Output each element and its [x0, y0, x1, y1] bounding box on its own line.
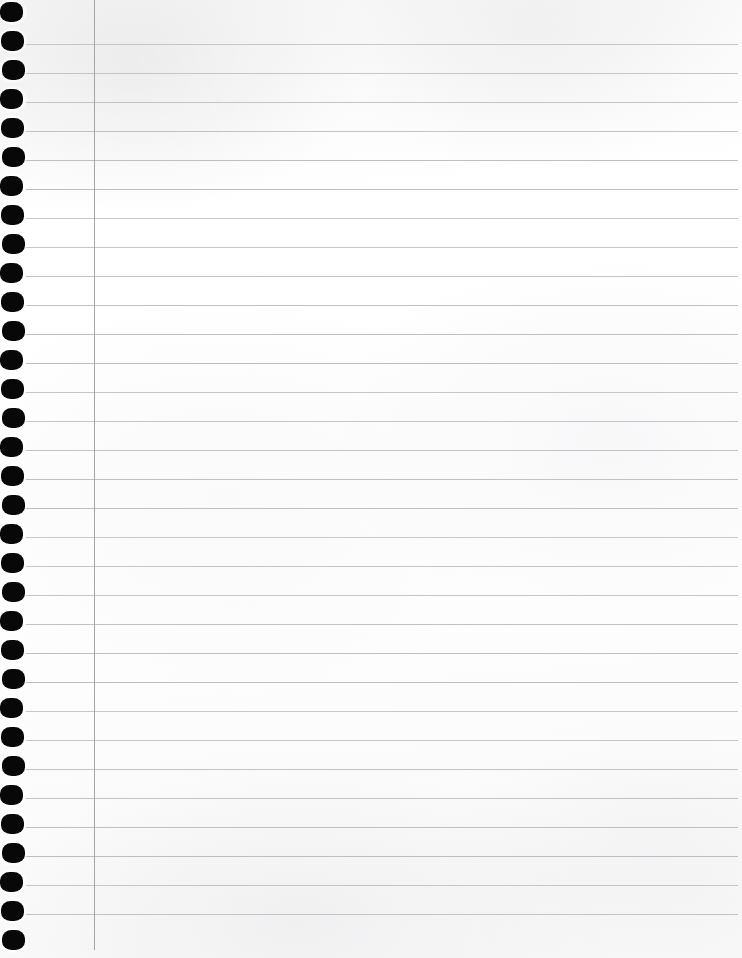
punch-hole [0, 698, 23, 718]
punch-hole [1, 553, 24, 573]
punch-hole [0, 872, 23, 892]
punch-hole [1, 118, 24, 138]
writing-area [95, 0, 742, 958]
punch-hole [2, 582, 25, 602]
punch-hole [0, 611, 23, 631]
punch-hole [2, 930, 25, 950]
punch-hole [0, 2, 23, 22]
punch-hole [1, 640, 24, 660]
punch-hole [1, 292, 24, 312]
punch-hole [0, 437, 23, 457]
punch-hole [2, 843, 25, 863]
punch-hole [0, 524, 23, 544]
punch-hole [0, 89, 23, 109]
punch-hole [0, 263, 23, 283]
punch-hole [2, 60, 25, 80]
punch-hole [1, 814, 24, 834]
punch-hole [2, 234, 25, 254]
punch-hole [1, 727, 24, 747]
punch-hole [1, 379, 24, 399]
punch-hole [1, 31, 24, 51]
punch-hole [2, 321, 25, 341]
punch-hole [2, 495, 25, 515]
punch-hole [2, 408, 25, 428]
punch-hole [0, 785, 23, 805]
punch-hole [0, 350, 23, 370]
punch-hole [2, 669, 25, 689]
punch-hole [0, 176, 23, 196]
punch-hole [1, 466, 24, 486]
punch-hole [2, 756, 25, 776]
punch-hole [1, 205, 24, 225]
punch-hole [2, 147, 25, 167]
punch-hole [1, 901, 24, 921]
notebook-page [0, 0, 742, 958]
